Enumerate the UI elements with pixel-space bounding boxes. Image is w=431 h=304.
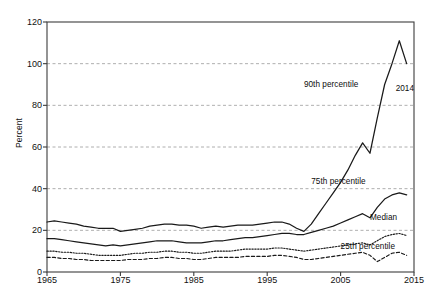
x-tick-label: 1965 bbox=[37, 276, 57, 285]
y-tick-label: 20 bbox=[32, 226, 42, 235]
y-tick-label: 120 bbox=[27, 18, 42, 27]
series-line-25th-percentile bbox=[47, 252, 407, 261]
y-tick-label: 100 bbox=[27, 59, 42, 68]
y-tick-label: 40 bbox=[32, 184, 42, 193]
x-tick-label: 1975 bbox=[110, 276, 130, 285]
x-tick-label: 2005 bbox=[331, 276, 351, 285]
annotation-label: 2014 bbox=[396, 84, 414, 93]
series-line-90th-percentile bbox=[47, 41, 407, 232]
y-tick-label: 60 bbox=[32, 143, 42, 152]
y-tick-label: 80 bbox=[32, 101, 42, 110]
annotation-label: Median bbox=[370, 213, 397, 222]
x-tick-label: 2015 bbox=[404, 276, 424, 285]
percentile-line-chart: Percent 020406080100120 1965197519851995… bbox=[0, 0, 431, 304]
y-axis-tick-labels: 020406080100120 bbox=[0, 0, 42, 304]
annotation-label: 75th percentile bbox=[311, 177, 365, 186]
annotation-label: 25th percentile bbox=[341, 242, 395, 251]
series-line-75th-percentile bbox=[47, 193, 407, 246]
x-axis-tick-labels: 196519751985199520052015 bbox=[0, 276, 431, 292]
plot-area bbox=[0, 0, 431, 304]
x-tick-label: 1985 bbox=[184, 276, 204, 285]
annotation-label: 90th percentile bbox=[304, 80, 358, 89]
x-tick-label: 1995 bbox=[257, 276, 277, 285]
